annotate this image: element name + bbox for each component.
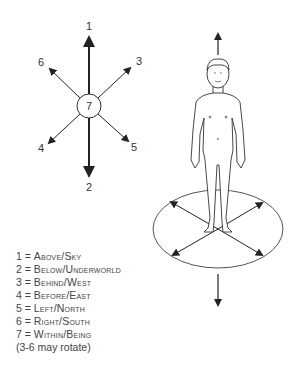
legend: 1 = Above/Sky 2 = Below/Underworld 3 = B…: [16, 250, 121, 354]
legend-item-3: 3 = Behind/West: [16, 276, 121, 289]
arrow-upper-left-icon: [50, 69, 80, 98]
legend-item-2: 2 = Below/Underworld: [16, 263, 121, 276]
arrow-front-left-icon: [173, 229, 218, 255]
human-figure-diagram: [153, 34, 283, 305]
arrow-lower-right-icon: [98, 114, 128, 141]
label-6: 6: [38, 56, 44, 68]
label-4: 4: [38, 142, 44, 154]
legend-item-5: 5 = Left/North: [16, 302, 121, 315]
arrow-upper-right-icon: [98, 68, 130, 98]
label-3: 3: [136, 55, 142, 67]
label-2: 2: [86, 181, 92, 193]
arrow-front-right-icon: [218, 229, 262, 255]
legend-item-4: 4 = Before/East: [16, 289, 121, 302]
arrow-lower-left-icon: [49, 114, 80, 143]
label-1: 1: [86, 20, 92, 32]
label-7: 7: [86, 100, 92, 112]
legend-note: (3-6 may rotate): [16, 341, 121, 354]
label-5: 5: [131, 141, 137, 153]
legend-item-7: 7 = Within/Being: [16, 328, 121, 341]
compass-diagram: 7 1 2 3 4 5 6: [38, 20, 142, 193]
legend-item-1: 1 = Above/Sky: [16, 250, 121, 263]
person-icon: [191, 59, 245, 232]
legend-item-6: 6 = Right/South: [16, 315, 121, 328]
